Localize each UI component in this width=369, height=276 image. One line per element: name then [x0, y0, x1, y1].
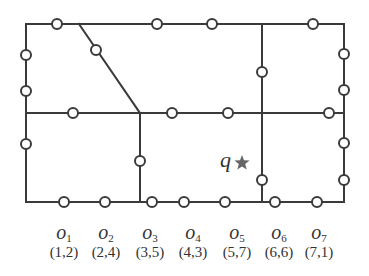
object-index: 3 — [152, 232, 158, 244]
star-icon — [234, 155, 249, 170]
object-letter: o — [311, 221, 321, 243]
object-letter: o — [229, 221, 239, 243]
node-circle — [339, 49, 349, 59]
object-index: 4 — [195, 232, 201, 244]
node-circle — [257, 175, 267, 185]
node-circle — [207, 19, 217, 29]
object-letter: o — [56, 221, 66, 243]
node-circle — [220, 197, 230, 207]
node-circle — [147, 197, 157, 207]
node-circle — [68, 108, 78, 118]
object-letter: o — [98, 221, 108, 243]
object-coordinate: (1,2) — [42, 244, 86, 260]
object-index: 6 — [281, 232, 287, 244]
node-circle — [135, 156, 145, 166]
object-index: 2 — [108, 232, 114, 244]
node-circle — [52, 19, 62, 29]
object-index: 5 — [239, 232, 245, 244]
node-circle — [59, 197, 69, 207]
node-circle — [21, 50, 31, 60]
node-circle — [100, 197, 110, 207]
node-circle — [21, 139, 31, 149]
node-circle — [223, 108, 233, 118]
object-coordinate: (5,7) — [215, 244, 259, 260]
object-index: 1 — [66, 232, 72, 244]
object-coordinate: (6,6) — [257, 244, 301, 260]
node-circle — [21, 86, 31, 96]
node-circle — [179, 197, 189, 207]
road-network-diagram: q o1(1,2)o2(2,4)o3(3,5)o4(4,3)o5(5,7)o6(… — [0, 0, 369, 276]
node-circle — [312, 197, 322, 207]
road-edge — [79, 24, 140, 113]
object-coordinate: (7,1) — [297, 244, 341, 260]
node-circle — [308, 19, 318, 29]
node-circle — [339, 175, 349, 185]
query-label: q — [220, 147, 231, 173]
node-circle — [152, 19, 162, 29]
node-circle — [167, 108, 177, 118]
object-letter: o — [142, 221, 152, 243]
object-index: 7 — [321, 232, 327, 244]
node-circle — [339, 138, 349, 148]
node-circle — [257, 67, 267, 77]
node-circle — [91, 45, 101, 55]
object-coordinate: (2,4) — [84, 244, 128, 260]
object-letter: o — [185, 221, 195, 243]
node-circle — [339, 85, 349, 95]
object-coordinate: (4,3) — [171, 244, 215, 260]
object-letter: o — [271, 221, 281, 243]
node-circle — [270, 197, 280, 207]
node-circle — [324, 108, 334, 118]
object-coordinate: (3,5) — [128, 244, 172, 260]
